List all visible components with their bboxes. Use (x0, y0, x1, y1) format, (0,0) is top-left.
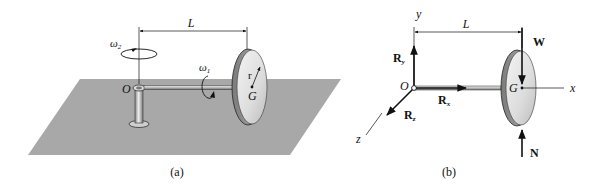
y-axis-label: y (415, 7, 422, 21)
pedestal-top-hole (136, 87, 142, 90)
force-Ry-label: Ry (393, 51, 406, 66)
pedestal-post (135, 90, 143, 123)
origin-point (412, 86, 417, 91)
origin-label-O-b: O (400, 79, 409, 93)
shaft (144, 86, 234, 90)
ground-plane (28, 79, 341, 155)
length-label: L (187, 16, 195, 30)
gyroscope-figure: L ω2 ω1 r G O (a) y L (0, 0, 603, 190)
omega2-arrowhead (131, 48, 137, 52)
force-Rx-label: Rx (438, 93, 451, 108)
omega2-label: ω2 (110, 37, 122, 51)
panel-a: L ω2 ω1 r G O (a) (28, 16, 341, 179)
force-N-label: N (530, 146, 539, 160)
radius-label: r (248, 69, 252, 81)
center-label-G-b: G (509, 81, 518, 95)
caption-b: (b) (442, 165, 456, 179)
caption-a: (a) (170, 165, 183, 179)
force-W-label: W (533, 35, 545, 49)
center-point-G-b (521, 87, 524, 90)
length-label-b: L (462, 17, 470, 31)
center-label-G: G (248, 89, 257, 103)
omega1-label: ω1 (199, 61, 210, 75)
panel-b: y L Ry Rx z Rz O x W G N (355, 7, 576, 179)
origin-label-O: O (122, 82, 131, 96)
center-point-G (251, 86, 254, 89)
x-axis-label: x (569, 81, 576, 95)
z-axis-label: z (355, 132, 361, 146)
z-axis (366, 113, 382, 135)
force-Rz-label: Rz (404, 108, 416, 123)
